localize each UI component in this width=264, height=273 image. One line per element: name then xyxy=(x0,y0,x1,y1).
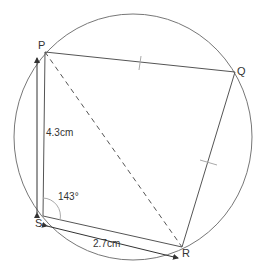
diagonal-pr xyxy=(45,52,182,247)
side-qr xyxy=(182,72,235,247)
equal-mark-pq xyxy=(139,56,141,70)
angle-label-s: 143° xyxy=(58,192,79,202)
geometry-diagram: P Q R S 4.3cm 2.7cm 143° xyxy=(0,0,264,273)
point-label-r: R xyxy=(182,248,190,259)
point-label-q: Q xyxy=(237,66,246,77)
length-label-ps: 4.3cm xyxy=(46,128,73,138)
length-label-sr: 2.7cm xyxy=(93,239,120,249)
point-label-s: S xyxy=(35,218,42,229)
point-label-p: P xyxy=(38,40,45,51)
side-sp xyxy=(43,52,45,216)
